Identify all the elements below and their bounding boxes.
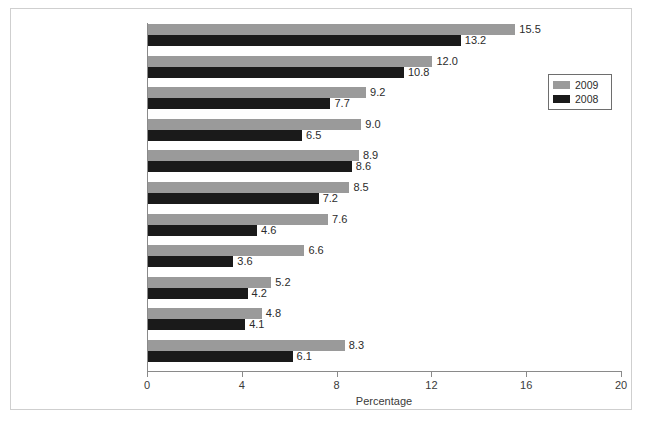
legend-item-2009: 2009: [553, 80, 598, 90]
bar-value-label: 7.2: [323, 193, 338, 204]
bar-2008: [148, 351, 293, 362]
chart-row: British Columbia7.64.6: [147, 213, 621, 245]
x-axis-tick-label: 12: [425, 379, 437, 391]
bar-value-label: 8.5: [353, 182, 368, 193]
bar-value-label: 15.5: [519, 24, 540, 35]
x-axis-tick: [337, 372, 338, 377]
chart-row: Canada8.36.1: [147, 339, 621, 371]
bar-2008: [148, 98, 330, 109]
bar-value-label: 13.2: [465, 35, 486, 46]
x-axis-tick: [526, 372, 527, 377]
bar-value-label: 9.0: [365, 119, 380, 130]
chart-legend: 2009 2008: [548, 74, 612, 110]
bar-2009: [148, 24, 515, 35]
legend-swatch-2008-icon: [553, 95, 570, 103]
x-axis-tick-label: 0: [144, 379, 150, 391]
bar-2008: [148, 35, 461, 46]
bar-2008: [148, 161, 352, 172]
legend-swatch-2009-icon: [553, 81, 570, 89]
bar-value-label: 10.8: [408, 67, 429, 78]
x-axis-tick: [431, 372, 432, 377]
bar-2009: [148, 308, 262, 319]
x-axis-tick-label: 4: [239, 379, 245, 391]
chart-screenshot: Newfoundland and Labrador15.513.2Prince …: [0, 0, 645, 423]
x-axis-tick-label: 20: [615, 379, 627, 391]
chart-row: Quebec8.57.2: [147, 181, 621, 213]
bar-value-label: 8.6: [356, 161, 371, 172]
x-axis-title: Percentage: [356, 395, 412, 407]
x-axis-tick: [147, 372, 148, 377]
chart-row: New Brunswick8.98.6: [147, 149, 621, 181]
x-axis-tick: [242, 372, 243, 377]
bar-2009: [148, 56, 432, 67]
x-axis-tick: [621, 372, 622, 377]
bar-2008: [148, 193, 319, 204]
figure-frame: Newfoundland and Labrador15.513.2Prince …: [10, 8, 632, 410]
chart-row: Manitoba5.24.2: [147, 276, 621, 308]
bar-2008: [148, 319, 245, 330]
bar-value-label: 6.5: [306, 130, 321, 141]
bar-value-label: 6.6: [308, 245, 323, 256]
x-axis-line: [147, 371, 622, 372]
bar-2009: [148, 150, 359, 161]
bar-value-label: 9.2: [370, 87, 385, 98]
bar-2009: [148, 340, 345, 351]
bar-value-label: 7.6: [332, 214, 347, 225]
bar-2008: [148, 130, 302, 141]
bar-2008: [148, 225, 257, 236]
bar-2009: [148, 245, 304, 256]
bar-value-label: 4.2: [252, 288, 267, 299]
legend-label-2008: 2008: [575, 94, 598, 104]
legend-item-2008: 2008: [553, 94, 598, 104]
bar-2009: [148, 214, 328, 225]
legend-label-2009: 2009: [575, 80, 598, 90]
bar-2008: [148, 256, 233, 267]
bar-value-label: 4.8: [266, 308, 281, 319]
bar-value-label: 3.6: [237, 256, 252, 267]
bar-value-label: 5.2: [275, 277, 290, 288]
chart-row: Saskatchewan4.84.1: [147, 307, 621, 339]
chart-row: Alberta6.63.6: [147, 244, 621, 276]
bar-value-label: 7.7: [334, 98, 349, 109]
chart-row: Ontario9.06.5: [147, 118, 621, 150]
bar-value-label: 4.1: [249, 319, 264, 330]
bar-value-label: 4.6: [261, 225, 276, 236]
bar-2008: [148, 288, 248, 299]
bar-2009: [148, 87, 366, 98]
bar-value-label: 6.1: [297, 351, 312, 362]
bar-2009: [148, 182, 349, 193]
chart-row: Newfoundland and Labrador15.513.2: [147, 23, 621, 55]
x-axis-tick-label: 16: [520, 379, 532, 391]
bar-2008: [148, 67, 404, 78]
bar-2009: [148, 119, 361, 130]
bar-value-label: 8.3: [349, 340, 364, 351]
x-axis-tick-label: 8: [334, 379, 340, 391]
bar-value-label: 12.0: [436, 56, 457, 67]
